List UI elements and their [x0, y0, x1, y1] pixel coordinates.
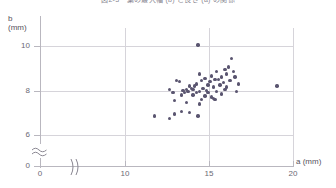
y-tick-label-8: 8	[6, 87, 30, 95]
data-point	[195, 91, 198, 94]
data-point	[185, 101, 188, 104]
data-point	[213, 98, 216, 101]
data-point	[220, 92, 223, 95]
x-tick-label-10: 10	[113, 170, 137, 178]
data-point	[183, 91, 186, 94]
data-point	[153, 114, 156, 117]
data-point	[222, 81, 225, 84]
y-tick-label-10: 10	[6, 42, 30, 50]
data-point	[196, 114, 199, 117]
data-point	[173, 112, 176, 115]
data-point	[237, 82, 240, 85]
x-tick-0	[40, 161, 41, 167]
data-point	[171, 91, 174, 94]
x-tick-10	[125, 161, 126, 167]
data-point	[217, 78, 220, 81]
data-point	[232, 70, 235, 73]
data-point	[168, 117, 171, 120]
gridline-y-10	[40, 46, 293, 47]
y-axis-title: b (mm)	[8, 14, 27, 32]
data-point	[200, 98, 203, 101]
data-point	[200, 79, 203, 82]
gridline-x-20	[293, 28, 294, 166]
gridline-y-8	[40, 91, 293, 92]
y-tick-10	[34, 46, 41, 47]
x-tick-label-15: 15	[197, 170, 221, 178]
data-point	[233, 75, 236, 78]
data-point	[206, 83, 209, 86]
data-point	[178, 80, 181, 83]
data-point	[203, 77, 206, 80]
y-tick-label-6: 6	[6, 131, 30, 139]
x-tick-label-0: 0	[28, 170, 52, 178]
data-point	[215, 70, 218, 73]
x-axis-label: a	[296, 157, 300, 166]
y-axis-unit: (mm)	[8, 23, 27, 32]
x-axis-title: a (mm)	[296, 157, 321, 166]
figure-caption: 図2-3 葉の最大幅 (b) と長さ (a) の関係	[0, 0, 336, 4]
gridline-x-10	[125, 28, 126, 166]
plot-area	[40, 28, 293, 166]
data-point	[223, 68, 226, 71]
x-tick-15	[209, 161, 210, 167]
data-point	[198, 72, 201, 75]
data-point	[173, 99, 176, 102]
data-point	[196, 43, 199, 46]
data-point	[275, 84, 278, 87]
data-point	[180, 110, 183, 113]
x-tick-20	[293, 161, 294, 167]
y-tick-8	[34, 91, 41, 92]
data-point	[198, 102, 201, 105]
data-point	[212, 85, 215, 88]
data-point	[210, 74, 213, 77]
data-point	[191, 88, 194, 91]
data-point	[235, 90, 238, 93]
y-tick-6	[34, 135, 41, 136]
y-tick-label-0: 0	[6, 162, 30, 170]
data-point	[180, 93, 183, 96]
data-point	[186, 90, 189, 93]
data-point	[228, 79, 231, 82]
data-point	[225, 72, 228, 75]
data-point	[188, 111, 191, 114]
data-point	[198, 90, 201, 93]
data-point	[230, 57, 233, 60]
data-point	[191, 93, 194, 96]
data-point	[227, 65, 230, 68]
data-point	[220, 75, 223, 78]
data-point	[223, 88, 226, 91]
gridline-y-6	[40, 135, 293, 136]
x-axis-unit: (mm)	[303, 157, 322, 166]
data-point	[215, 90, 218, 93]
x-tick-label-20: 20	[281, 170, 305, 178]
data-point	[203, 94, 206, 97]
data-point	[218, 83, 221, 86]
y-axis-label: b	[8, 14, 12, 23]
